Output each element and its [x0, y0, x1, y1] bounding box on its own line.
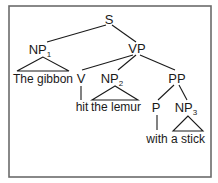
node-v: V — [77, 71, 86, 86]
leaf-the-gibbon: The gibbon — [13, 72, 73, 86]
leaf-with: with — [145, 132, 167, 146]
leaf-a-stick: a stick — [171, 132, 206, 146]
node-s: S — [105, 12, 114, 27]
diagram-frame — [9, 6, 211, 177]
leaf-the-lemur: the lemur — [91, 100, 141, 114]
leaf-hit: hit — [76, 100, 89, 114]
syntax-tree-diagram: S NP1 VP V NP2 PP P NP3 The gibbon hit t… — [0, 0, 218, 183]
node-vp: VP — [128, 41, 145, 56]
node-p: P — [152, 100, 161, 115]
node-pp: PP — [168, 71, 185, 86]
